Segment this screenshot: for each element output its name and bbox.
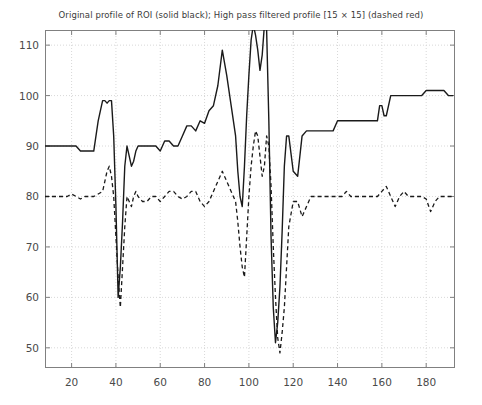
- highpass-profile-line: [45, 131, 453, 353]
- y-tick-80: 80: [7, 190, 39, 202]
- tick-marks: [45, 30, 455, 368]
- x-tick-80: 80: [188, 376, 222, 388]
- x-tick-60: 60: [143, 376, 177, 388]
- x-tick-20: 20: [55, 376, 89, 388]
- profile-line-chart: [45, 30, 455, 368]
- y-tick-70: 70: [7, 241, 39, 253]
- x-tick-160: 160: [365, 376, 399, 388]
- x-tick-180: 180: [409, 376, 443, 388]
- y-tick-50: 50: [7, 342, 39, 354]
- axis-frame: [46, 31, 455, 368]
- chart-title: Original profile of ROI (solid black); H…: [0, 10, 482, 20]
- data-series-layer: [45, 30, 453, 353]
- x-tick-100: 100: [232, 376, 266, 388]
- y-tick-60: 60: [7, 291, 39, 303]
- x-tick-40: 40: [99, 376, 133, 388]
- grid-lines: [45, 30, 455, 368]
- x-tick-120: 120: [276, 376, 310, 388]
- x-tick-140: 140: [321, 376, 355, 388]
- y-tick-90: 90: [7, 140, 39, 152]
- plot-area: [45, 30, 455, 368]
- y-tick-100: 100: [7, 90, 39, 102]
- figure-container: Original profile of ROI (solid black); H…: [0, 0, 482, 405]
- y-tick-110: 110: [7, 39, 39, 51]
